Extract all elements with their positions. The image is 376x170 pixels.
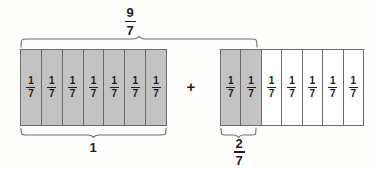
fraction-denominator: 7 [152, 89, 160, 99]
fraction-denominator: 7 [131, 89, 139, 99]
fraction-numerator: 1 [131, 76, 139, 86]
segment-fraction: 17 [26, 76, 35, 99]
bar-left-brace [20, 128, 167, 138]
bar-segment: 17 [63, 50, 84, 125]
fraction-numerator: 1 [288, 76, 296, 86]
fraction-denominator: 7 [111, 89, 119, 99]
fraction-numerator: 1 [309, 76, 317, 86]
bar-segment: 17 [84, 50, 105, 125]
fraction-denominator: 7 [227, 89, 235, 99]
fraction-numerator: 1 [90, 76, 98, 86]
fraction-denominator: 7 [309, 89, 317, 99]
fraction-numerator: 2 [235, 137, 242, 150]
fraction-denominator: 7 [349, 89, 357, 99]
segment-fraction: 17 [68, 76, 77, 99]
bar-left: 17171717171717 [20, 49, 167, 126]
segment-fraction: 17 [110, 76, 119, 99]
fraction-bar [125, 21, 136, 22]
fraction-denominator: 7 [69, 89, 77, 99]
segment-fraction: 17 [152, 76, 161, 99]
bar-segment: 17 [221, 50, 241, 125]
fraction-denominator: 7 [126, 24, 133, 37]
fraction-denominator: 7 [329, 89, 337, 99]
segment-fraction: 17 [267, 76, 276, 99]
fraction-denominator: 7 [235, 154, 242, 167]
fraction-denominator: 7 [27, 89, 35, 99]
fraction-numerator: 1 [329, 76, 337, 86]
bar-left-brace-label: 1 [73, 139, 113, 155]
bar-segment: 17 [104, 50, 125, 125]
bar-segment: 17 [282, 50, 302, 125]
segment-fraction: 17 [247, 76, 256, 99]
fraction-denominator: 7 [288, 89, 296, 99]
fraction-denominator: 7 [48, 89, 56, 99]
fraction-numerator: 1 [349, 76, 357, 86]
fraction-two-sevenths: 2 7 [234, 137, 245, 167]
segment-fraction: 17 [131, 76, 140, 99]
segment-fraction: 17 [47, 76, 56, 99]
fraction-denominator: 7 [90, 89, 98, 99]
bar-segment: 17 [344, 50, 363, 125]
fraction-numerator: 1 [268, 76, 276, 86]
fraction-nine-sevenths: 9 7 [125, 6, 136, 36]
bar-segment: 17 [21, 50, 42, 125]
fraction-numerator: 1 [111, 76, 119, 86]
segment-fraction: 17 [226, 76, 235, 99]
bar-segment: 17 [241, 50, 261, 125]
bar-segment: 17 [303, 50, 323, 125]
bar-segment: 17 [262, 50, 282, 125]
bar-segment: 17 [146, 50, 166, 125]
segment-fraction: 17 [308, 76, 317, 99]
bar-right: 17171717171717 [220, 49, 364, 126]
plus-operator: + [184, 80, 198, 94]
total-span-brace [20, 36, 258, 47]
segment-fraction: 17 [89, 76, 98, 99]
fraction-denominator: 7 [268, 89, 276, 99]
fraction-numerator: 1 [48, 76, 56, 86]
bar-segment: 17 [323, 50, 343, 125]
segment-fraction: 17 [349, 76, 358, 99]
fraction-denominator: 7 [247, 89, 255, 99]
segment-fraction: 17 [328, 76, 337, 99]
bar-right-brace-label: 2 7 [219, 138, 259, 166]
bar-segment: 17 [42, 50, 63, 125]
fraction-diagram: 9 7 17171717171717 + 17171717171717 1 2 … [0, 0, 376, 170]
fraction-numerator: 1 [227, 76, 235, 86]
segment-fraction: 17 [287, 76, 296, 99]
fraction-numerator: 1 [27, 76, 35, 86]
fraction-numerator: 1 [69, 76, 77, 86]
total-fraction-label: 9 7 [110, 8, 150, 35]
fraction-numerator: 9 [126, 6, 133, 19]
bar-segment: 17 [125, 50, 146, 125]
fraction-numerator: 1 [152, 76, 160, 86]
fraction-numerator: 1 [247, 76, 255, 86]
